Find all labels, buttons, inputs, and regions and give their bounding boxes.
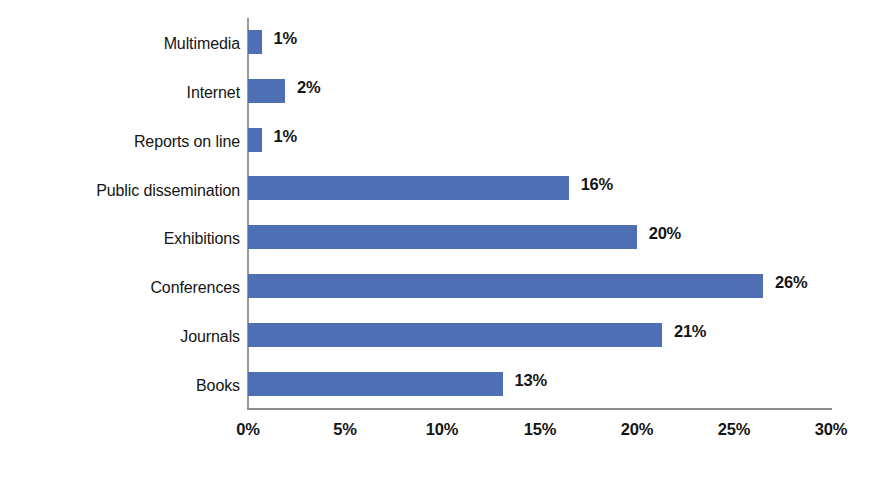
bar-row: 13% xyxy=(248,360,831,409)
x-tick-label-20: 20% xyxy=(597,420,677,439)
category-label-journals: Journals xyxy=(0,328,240,346)
bar-value-label: 13% xyxy=(515,371,547,390)
bar-books xyxy=(248,372,503,396)
bar-value-label: 2% xyxy=(297,78,320,97)
bar-value-label: 21% xyxy=(674,322,706,341)
category-label-books: Books xyxy=(0,377,240,395)
bar-multimedia xyxy=(248,30,262,54)
bar-value-label: 1% xyxy=(274,127,297,146)
bar-value-label: 26% xyxy=(775,273,807,292)
bar-value-label: 20% xyxy=(649,224,681,243)
category-label-reports-on-line: Reports on line xyxy=(0,133,240,151)
x-tick-label-30: 30% xyxy=(791,420,871,439)
category-label-internet: Internet xyxy=(0,84,240,102)
bar-row: 1% xyxy=(248,116,831,165)
x-tick-label-10: 10% xyxy=(402,420,482,439)
category-label-multimedia: Multimedia xyxy=(0,35,240,53)
bar-value-label: 16% xyxy=(581,175,613,194)
bar-row: 20% xyxy=(248,213,831,262)
x-tick-label-5: 5% xyxy=(305,420,385,439)
category-label-public-dissemination: Public dissemination xyxy=(0,182,240,200)
bar-exhibitions xyxy=(248,225,637,249)
bar-reports-on-line xyxy=(248,128,262,152)
bar-row: 26% xyxy=(248,262,831,311)
x-tick-label-0: 0% xyxy=(208,420,288,439)
plot-area: 1% 2% 1% 16% 20% 26% 21% 13% xyxy=(248,18,831,409)
bar-public-dissemination xyxy=(248,176,569,200)
bar-chart: Multimedia Internet Reports on line Publ… xyxy=(0,0,888,478)
bar-conferences xyxy=(248,274,763,298)
bar-row: 1% xyxy=(248,18,831,67)
bar-journals xyxy=(248,323,662,347)
bar-row: 2% xyxy=(248,67,831,116)
x-tick-label-25: 25% xyxy=(694,420,774,439)
category-label-exhibitions: Exhibitions xyxy=(0,230,240,248)
bar-row: 21% xyxy=(248,311,831,360)
category-label-conferences: Conferences xyxy=(0,279,240,297)
bar-internet xyxy=(248,79,285,103)
bar-row: 16% xyxy=(248,164,831,213)
x-tick-label-15: 15% xyxy=(500,420,580,439)
bar-value-label: 1% xyxy=(274,29,297,48)
